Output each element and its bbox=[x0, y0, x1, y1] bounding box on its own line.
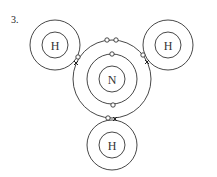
ammonia-dot-cross-diagram: N H H H bbox=[0, 0, 217, 177]
nitrogen-label: N bbox=[108, 73, 117, 87]
hydrogen-electrons bbox=[74, 60, 149, 121]
hydrogen-left-label: H bbox=[51, 39, 60, 53]
hydrogen-right-label: H bbox=[164, 39, 173, 53]
hydrogen-bottom-label: H bbox=[108, 139, 117, 153]
